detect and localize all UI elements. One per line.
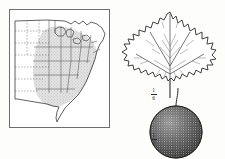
specimen-graphic	[116, 2, 224, 159]
fruit-scale-label: 1 2	[147, 133, 160, 146]
leaf-scale-label: 1 6	[147, 88, 160, 101]
fruit-scale-numerator: 1	[147, 133, 160, 139]
fruit-stalk	[176, 88, 178, 106]
range-shading	[33, 26, 97, 107]
leaf-scale-denominator: 6	[147, 96, 160, 102]
leaf-drawing	[122, 12, 216, 98]
leaf-blade	[122, 12, 216, 81]
botanical-plate: 1 6 1 2	[0, 0, 225, 159]
range-map-figure	[9, 9, 110, 128]
specimen-figure: 1 6 1 2	[116, 2, 224, 159]
range-map-graphic	[9, 9, 110, 128]
fruit-scale-denominator: 2	[147, 141, 160, 147]
leaf-scale-numerator: 1	[147, 88, 160, 94]
